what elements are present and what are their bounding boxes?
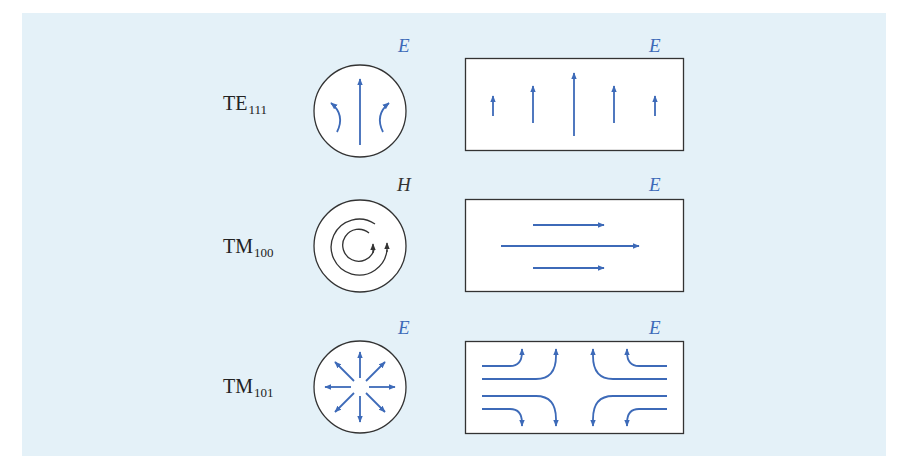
te111-cross-section <box>314 65 406 157</box>
tm100-side-view <box>466 200 684 292</box>
tm101-cross-section <box>314 341 406 433</box>
tm101-side-view <box>466 342 684 434</box>
mode-diagram <box>0 0 901 467</box>
tm100-cross-section <box>314 200 406 292</box>
te111-side-view <box>466 59 684 151</box>
